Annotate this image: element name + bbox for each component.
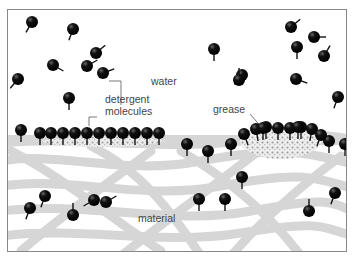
- detergent-molecule: [26, 16, 38, 32]
- detergent-molecule: [308, 31, 326, 43]
- detergent-molecule: [208, 43, 220, 61]
- detergent-molecule: [291, 41, 303, 59]
- detergent-molecule: [285, 19, 300, 33]
- detergent-molecule: [97, 67, 114, 79]
- detergent-molecule: [219, 193, 231, 211]
- label-material: material: [138, 213, 175, 224]
- detergent-molecule: [290, 73, 307, 85]
- detergent-molecule: [63, 92, 75, 110]
- detergent-molecule: [67, 23, 79, 40]
- label-water: water: [151, 76, 177, 87]
- label-grease: grease: [213, 104, 245, 115]
- label-detergent-molecules-line2: molecules: [105, 106, 152, 117]
- detergent-molecule: [81, 60, 97, 72]
- detergent-molecule: [193, 193, 205, 211]
- detergent-molecule: [47, 59, 63, 71]
- detergent-molecule: [318, 46, 330, 62]
- detergent-molecule: [90, 45, 105, 59]
- detergent-molecule: [332, 91, 344, 108]
- label-detergent-molecules-line1: detergent: [105, 94, 149, 105]
- detergent-molecule: [10, 73, 24, 88]
- diagram-frame: water detergent molecules grease materia…: [7, 9, 347, 252]
- detergent-molecule: [24, 202, 36, 219]
- diagram-illustration: [8, 10, 347, 252]
- detergent-molecule: [100, 196, 116, 208]
